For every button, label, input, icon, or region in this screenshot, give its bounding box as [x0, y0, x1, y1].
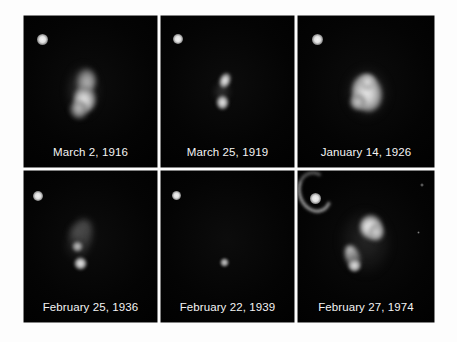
figure-sheet: March 2, 1916 March 25, 1919 January 14,…	[0, 0, 457, 342]
panel-caption: February 22, 1939	[161, 301, 294, 313]
nebula-core	[220, 258, 229, 267]
panel-grid: March 2, 1916 March 25, 1919 January 14,…	[24, 16, 435, 319]
nebula-lower-knot	[350, 94, 366, 110]
nebula-halo	[68, 223, 86, 243]
panel-caption: March 25, 1919	[161, 146, 294, 158]
image-panel-4: February 25, 1936	[24, 171, 157, 322]
image-panel-6: February 27, 1974	[298, 171, 434, 322]
nebula-lower-knot	[70, 101, 88, 119]
panel-caption: January 14, 1926	[298, 146, 434, 158]
image-panel-3: January 14, 1926	[298, 16, 434, 167]
sky-background	[24, 171, 157, 322]
nebula-upper-knot	[360, 74, 375, 90]
reference-star-marker	[33, 191, 43, 201]
reference-star-marker	[37, 34, 48, 45]
field-star-right	[417, 231, 420, 234]
nebula-upper-knot	[72, 241, 83, 252]
panel-caption: February 27, 1974	[298, 301, 434, 313]
reference-star-marker	[172, 191, 181, 200]
sky-background	[161, 171, 294, 322]
reference-star-marker	[173, 34, 183, 44]
panel-caption: March 2, 1916	[24, 146, 157, 158]
image-panel-2: March 25, 1919	[161, 16, 294, 167]
nebula-lower-knot	[74, 257, 87, 270]
image-panel-5: February 22, 1939	[161, 171, 294, 322]
image-panel-1: March 2, 1916	[24, 16, 157, 167]
nebula-lower-knot	[348, 259, 361, 272]
nebula-lower-knot	[216, 95, 229, 110]
field-star-upper-right	[420, 183, 424, 187]
nebula-upper-lobe	[368, 223, 384, 241]
reference-star-marker	[312, 34, 323, 45]
panel-caption: February 25, 1936	[24, 301, 157, 313]
